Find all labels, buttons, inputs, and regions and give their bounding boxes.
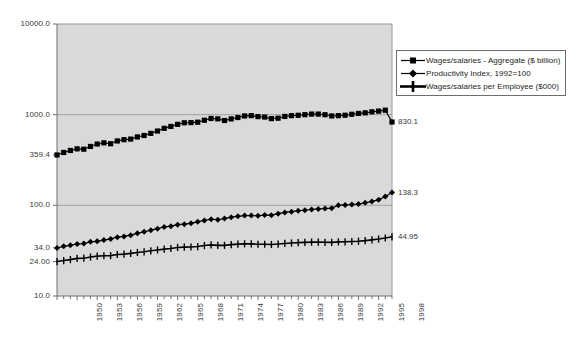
y-axis-tick-label: 24.00 [0, 257, 50, 266]
x-axis-tick-label: 1974 [256, 303, 265, 337]
x-axis-tick-label: 1959 [155, 303, 164, 337]
data-point-marker [296, 113, 301, 118]
legend-label-productivity: Productivity Index, 1992=100 [426, 69, 531, 78]
data-point-marker [175, 122, 180, 127]
data-point-marker [88, 144, 93, 149]
data-point-marker [222, 118, 227, 123]
data-point-marker [289, 113, 294, 118]
data-point-marker [235, 115, 240, 120]
data-point-marker [128, 136, 133, 141]
data-point-marker [209, 116, 214, 121]
y-axis-tick-label: 359.4 [0, 150, 50, 159]
data-point-marker [135, 134, 140, 139]
data-point-marker [68, 148, 73, 153]
x-axis-tick-label: 1989 [356, 303, 365, 337]
x-axis-tick-label: 1953 [115, 303, 124, 337]
chart-container: 10000.01000.0359.4100.034.024.0010.01950… [0, 0, 571, 351]
data-point-marker [262, 114, 267, 119]
data-point-marker [322, 112, 327, 117]
data-point-marker [316, 111, 321, 116]
data-point-marker [101, 140, 106, 145]
legend-marker-square-icon [400, 54, 426, 67]
data-point-marker [148, 131, 153, 136]
data-point-marker [242, 113, 247, 118]
x-axis-tick-label: 1968 [216, 303, 225, 337]
data-point-marker [369, 109, 374, 114]
data-point-marker [336, 113, 341, 118]
legend-label-aggregate: Wages/salaries - Aggregate ($ billion) [426, 56, 561, 65]
data-point-marker [255, 114, 260, 119]
data-point-marker [309, 111, 314, 116]
data-point-marker [329, 113, 334, 118]
data-point-marker [349, 112, 354, 117]
data-point-marker [61, 150, 66, 155]
series-end-value-label: 830.1 [398, 117, 418, 126]
y-axis-tick-label: 10.0 [0, 291, 50, 300]
data-point-marker [269, 116, 274, 121]
legend-marker-plus-icon [400, 80, 426, 93]
chart-legend: Wages/salaries - Aggregate ($ billion) P… [396, 50, 566, 96]
data-point-marker [389, 119, 394, 124]
data-point-marker [343, 113, 348, 118]
data-point-marker [75, 146, 80, 151]
data-point-marker [276, 116, 281, 121]
legend-item-aggregate: Wages/salaries - Aggregate ($ billion) [400, 54, 561, 67]
data-point-marker [356, 111, 361, 116]
data-point-marker [229, 116, 234, 121]
data-point-marker [249, 113, 254, 118]
x-axis-tick-label: 1983 [316, 303, 325, 337]
x-axis-tick-label: 1977 [276, 303, 285, 337]
data-point-marker [302, 112, 307, 117]
data-point-marker [142, 133, 147, 138]
data-point-marker [162, 126, 167, 131]
data-point-marker [108, 141, 113, 146]
x-axis-tick-label: 1980 [296, 303, 305, 337]
legend-item-per-employee: Wages/salaries per Employee ($000) [400, 80, 561, 93]
x-axis-tick-label: 1971 [236, 303, 245, 337]
data-point-marker [188, 120, 193, 125]
data-point-marker [376, 108, 381, 113]
data-point-marker [54, 152, 59, 157]
data-point-marker [215, 116, 220, 121]
data-point-marker [115, 138, 120, 143]
series-end-value-label: 44.95 [398, 232, 418, 241]
data-point-marker [282, 114, 287, 119]
data-point-marker [195, 120, 200, 125]
data-point-marker [383, 108, 388, 113]
x-axis-tick-label: 1998 [417, 303, 426, 337]
y-axis-tick-label: 1000.0 [0, 110, 50, 119]
data-point-marker [81, 147, 86, 152]
x-axis-tick-label: 1995 [397, 303, 406, 337]
data-point-marker [202, 118, 207, 123]
data-point-marker [363, 110, 368, 115]
series-end-value-label: 138.3 [398, 188, 418, 197]
x-axis-tick-label: 1986 [336, 303, 345, 337]
x-axis-tick-label: 1956 [135, 303, 144, 337]
legend-marker-diamond-icon [400, 67, 426, 80]
legend-label-per-employee: Wages/salaries per Employee ($000) [426, 82, 559, 91]
data-point-marker [95, 141, 100, 146]
y-axis-tick-label: 100.0 [0, 200, 50, 209]
data-point-marker [182, 120, 187, 125]
data-point-marker [168, 124, 173, 129]
data-point-marker [121, 137, 126, 142]
x-axis-tick-label: 1950 [95, 303, 104, 337]
x-axis-tick-label: 1992 [376, 303, 385, 337]
y-axis-tick-label: 10000.0 [0, 19, 50, 28]
data-point-marker [155, 128, 160, 133]
y-axis-tick-label: 34.0 [0, 243, 50, 252]
legend-item-productivity: Productivity Index, 1992=100 [400, 67, 561, 80]
x-axis-tick-label: 1962 [175, 303, 184, 337]
x-axis-tick-label: 1965 [196, 303, 205, 337]
